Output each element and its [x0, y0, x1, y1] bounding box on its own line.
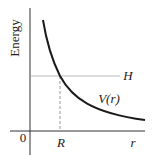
energy-diagram: Energy 0 R r H V(r) — [0, 0, 153, 155]
x-axis-label: r — [130, 135, 136, 150]
curve-label: V(r) — [98, 91, 120, 106]
intersection-label-R: R — [56, 135, 65, 150]
energy-level-label: H — [122, 68, 133, 83]
origin-label: 0 — [20, 130, 27, 145]
y-axis-label: Energy — [7, 19, 22, 57]
